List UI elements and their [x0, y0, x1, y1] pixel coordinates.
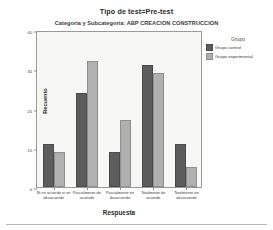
bar-group — [37, 32, 70, 187]
y-tick-label: 20 — [27, 108, 32, 113]
bar[interactable] — [43, 144, 54, 187]
y-tick-label: 30 — [27, 69, 32, 74]
x-axis-title: Respuesta — [36, 209, 202, 216]
y-tick-label: 10 — [27, 147, 32, 152]
bar-group — [70, 32, 103, 187]
x-tick-label: Parcialmente de acuerdo — [70, 191, 104, 200]
legend-swatch-icon — [206, 44, 213, 51]
bar[interactable] — [186, 167, 197, 187]
legend-swatch-icon — [206, 53, 213, 60]
bar[interactable] — [109, 152, 120, 187]
bar[interactable] — [87, 61, 98, 187]
x-tick-label: Parcialmente en desacuerdo — [103, 191, 137, 200]
legend-item-label: Grupo control — [215, 45, 241, 50]
bar[interactable] — [120, 120, 131, 187]
bar[interactable] — [175, 144, 186, 187]
page-divider — [6, 224, 267, 225]
chart-title: Tipo de test=Pre-test — [0, 7, 273, 16]
legend-entries: Grupo controlGrupo experimental — [206, 44, 270, 60]
legend-title: Grupo — [206, 36, 270, 42]
x-tick-label: Totalmente de acuerdo — [136, 191, 170, 200]
bar[interactable] — [76, 93, 87, 187]
bar[interactable] — [54, 152, 65, 187]
chart-subtitle: Categoría y Subcategoría: ABP CREACION C… — [0, 20, 273, 26]
bar-group — [103, 32, 136, 187]
x-tick-label: Ni en acuerdo ni en desacuerdo — [37, 191, 71, 200]
y-tick-label: 40 — [27, 30, 32, 35]
plot-area: Recuento 010203040 Ni en acuerdo ni en d… — [36, 31, 202, 188]
legend-item[interactable]: Grupo control — [206, 44, 270, 51]
bar-groups — [37, 32, 201, 187]
bar-group — [170, 32, 203, 187]
bar-group — [137, 32, 170, 187]
chart-page: Tipo de test=Pre-test Categoría y Subcat… — [0, 0, 273, 230]
bar[interactable] — [153, 73, 164, 187]
y-tick-label: 0 — [30, 187, 32, 192]
legend: Grupo Grupo controlGrupo experimental — [206, 36, 270, 61]
legend-item-label: Grupo experimental — [215, 54, 253, 59]
bar[interactable] — [142, 65, 153, 187]
legend-item[interactable]: Grupo experimental — [206, 53, 270, 60]
x-tick-label: Totalmente en desacuerdo — [169, 191, 203, 200]
